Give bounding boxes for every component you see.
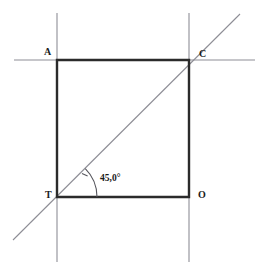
vertex-label-c: C xyxy=(199,49,206,59)
angle-tick-mark xyxy=(82,174,88,176)
angle-measure-label: 45,0° xyxy=(100,174,120,184)
vertex-label-t: T xyxy=(45,190,52,200)
angle-marker-group xyxy=(82,169,97,197)
vertex-label-o: O xyxy=(198,190,206,200)
angle-arc-45 xyxy=(85,169,97,197)
geometry-diagram: A C T O 45,0° xyxy=(0,0,271,274)
geometry-canvas xyxy=(0,0,271,274)
vertex-label-a: A xyxy=(44,47,51,57)
